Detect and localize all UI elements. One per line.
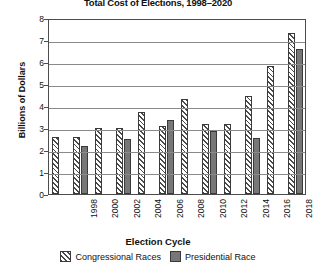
chart-legend: Congressional RacesPresidential Race: [0, 251, 316, 262]
bar-group: [267, 20, 289, 194]
x-tick-label: 2010: [218, 199, 228, 233]
y-tick-mark: [44, 85, 48, 86]
x-tick-label: 2016: [282, 199, 292, 233]
x-tick-label: 2018: [304, 199, 314, 233]
bar-group: [159, 20, 181, 194]
y-tick-label: 1: [22, 168, 44, 178]
x-tick-label: 2002: [132, 199, 142, 233]
bar-congressional: [116, 128, 123, 194]
x-tick-label: 2012: [239, 199, 249, 233]
bar-group: [224, 20, 246, 194]
bar-group: [116, 20, 138, 194]
y-tick-label: 4: [22, 102, 44, 112]
y-tick-label: 7: [22, 36, 44, 46]
bar-congressional: [245, 96, 252, 194]
bar-group: [73, 20, 95, 194]
gridline: [49, 64, 305, 65]
y-tick-label: 8: [22, 14, 44, 24]
bar-congressional: [181, 99, 188, 194]
legend-item: Presidential Race: [170, 251, 256, 262]
bar-congressional: [288, 33, 295, 194]
y-tick-mark: [44, 129, 48, 130]
x-tick-label: 2006: [175, 199, 185, 233]
legend-label: Congressional Races: [75, 252, 161, 262]
gridline: [49, 108, 305, 109]
gridline: [49, 86, 305, 87]
bar-congressional: [95, 128, 102, 194]
bar-group: [95, 20, 117, 194]
chart-container: Total Cost of Elections, 1998–2020 Billi…: [0, 0, 316, 268]
bar-presidential: [167, 120, 174, 194]
y-tick-label: 0: [22, 190, 44, 200]
y-tick-label: 5: [22, 80, 44, 90]
bar-group: [181, 20, 203, 194]
y-tick-label: 6: [22, 58, 44, 68]
x-tick-label: 2014: [261, 199, 271, 233]
y-tick-mark: [44, 151, 48, 152]
x-tick-label: 2008: [196, 199, 206, 233]
bar-group: [288, 20, 310, 194]
y-tick-mark: [44, 107, 48, 108]
plot-area: [48, 19, 306, 195]
x-tick-label: 1998: [89, 199, 99, 233]
x-tick-label: 2004: [153, 199, 163, 233]
bar-group: [138, 20, 160, 194]
y-tick-label: 3: [22, 124, 44, 134]
bar-presidential: [296, 49, 303, 194]
bar-congressional: [73, 137, 80, 194]
gridline: [49, 130, 305, 131]
legend-item: Congressional Races: [60, 251, 161, 262]
bars-layer: [49, 20, 305, 194]
y-tick-label: 2: [22, 146, 44, 156]
legend-swatch-presidential: [170, 251, 181, 262]
x-tick-label: 2000: [110, 199, 120, 233]
legend-label: Presidential Race: [185, 252, 256, 262]
y-tick-mark: [44, 195, 48, 196]
bar-congressional: [202, 124, 209, 194]
y-tick-mark: [44, 173, 48, 174]
gridline: [49, 152, 305, 153]
x-axis-title: Election Cycle: [0, 236, 316, 247]
gridline: [49, 42, 305, 43]
bar-congressional: [52, 137, 59, 194]
y-tick-mark: [44, 63, 48, 64]
bar-presidential: [253, 138, 260, 194]
bar-congressional: [224, 124, 231, 194]
bar-congressional: [159, 126, 166, 194]
legend-swatch-congressional: [60, 251, 71, 262]
chart-title: Total Cost of Elections, 1998–2020: [0, 0, 316, 8]
bar-presidential: [210, 131, 217, 194]
bar-group: [245, 20, 267, 194]
gridline: [49, 174, 305, 175]
bar-group: [202, 20, 224, 194]
bar-presidential: [124, 139, 131, 194]
bar-group: [52, 20, 74, 194]
y-tick-mark: [44, 19, 48, 20]
y-tick-mark: [44, 41, 48, 42]
